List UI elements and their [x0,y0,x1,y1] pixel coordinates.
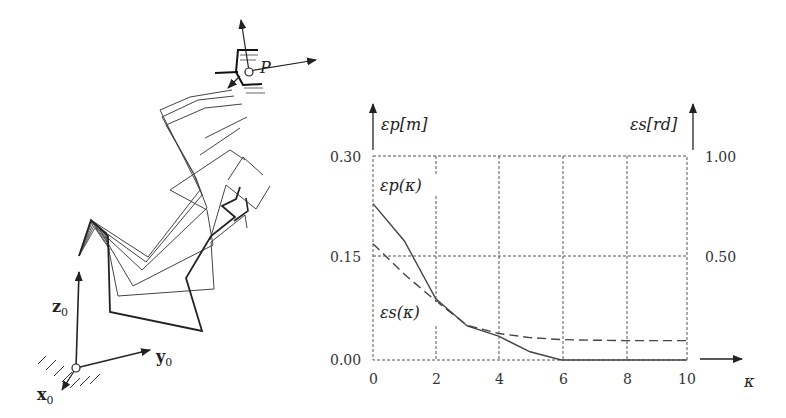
x-tick: 4 [495,371,504,387]
z0-axis [76,272,79,368]
series-ep-line [373,204,687,360]
y0-label: y0 [155,347,172,369]
x-tick: 2 [432,371,441,387]
x0-label: x0 [37,385,54,407]
y-tick-right: 0.50 [705,249,736,265]
z0-label: z0 [52,297,68,319]
y-tick-left: 0.30 [330,149,361,165]
y-tick-left: 0.00 [330,352,361,368]
ground-hatch-icon [38,356,100,388]
tool-z-axis [241,20,249,71]
series-es-line [373,244,687,341]
y0-axis [76,350,150,368]
series-es-annotation: εs(κ) [380,303,420,322]
left-y-axis-label: εp[m] [381,115,428,134]
point-p-marker [245,68,253,76]
point-p-label: P [259,58,271,77]
y-tick-left: 0.15 [330,249,361,265]
figure-canvas: P z0 y0 x0 0.30 0.15 0.00 1.00 0.50 0 2 … [0,0,786,418]
error-chart: 0.30 0.15 0.00 1.00 0.50 0 2 4 6 8 10 εp… [330,104,755,391]
x-tick: 6 [559,371,568,387]
series-ep-annotation: εp(κ) [380,176,422,195]
right-y-axis-label: εs[rd] [630,115,678,134]
robot-arm-diagram [38,20,316,390]
x-axis-label: κ [743,372,755,391]
x-tick: 8 [623,371,632,387]
x-tick: 10 [678,371,696,387]
x-tick: 0 [369,371,378,387]
y-tick-right: 1.00 [705,149,736,165]
base-origin-marker [72,364,80,372]
